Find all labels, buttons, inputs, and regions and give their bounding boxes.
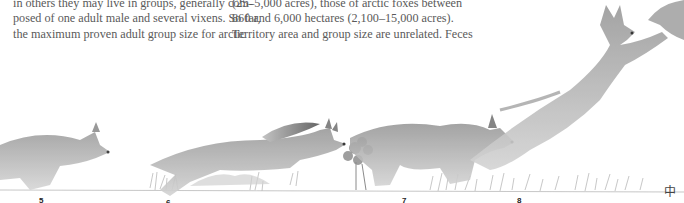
bird bbox=[648, 0, 684, 40]
figure-number: 6 bbox=[166, 198, 170, 203]
figure-number: 8 bbox=[517, 196, 521, 203]
figure-number: 7 bbox=[402, 196, 406, 203]
fox-5 bbox=[0, 122, 110, 190]
fox-sequence-illustration bbox=[0, 0, 684, 203]
artist-signature: 中 bbox=[664, 182, 676, 199]
figure-number: 5 bbox=[39, 196, 43, 203]
grass-ground bbox=[0, 171, 684, 192]
fox-8 bbox=[470, 5, 668, 170]
